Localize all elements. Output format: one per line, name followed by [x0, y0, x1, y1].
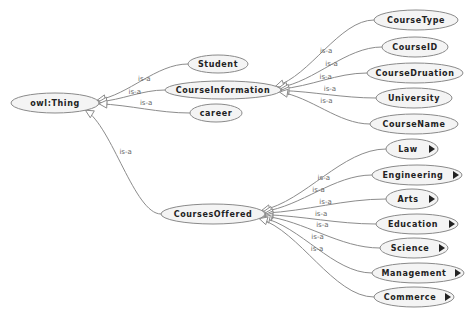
edge-label: is-a — [311, 233, 323, 241]
node-label: CourseType — [387, 16, 445, 25]
edge-label: is-a — [325, 60, 337, 68]
ontology-graph: is-ais-ais-ais-ais-ais-ais-ais-ais-ais-a… — [0, 0, 473, 323]
node-coursename[interactable]: CourseName — [370, 114, 458, 134]
node-science[interactable]: Science — [380, 238, 448, 258]
node-label: Arts — [397, 195, 418, 204]
node-law[interactable]: Law — [386, 139, 438, 159]
edge-label: is-a — [320, 47, 332, 55]
node-label: Management — [382, 269, 447, 278]
node-courseinformation[interactable]: CourseInformation — [165, 81, 281, 99]
node-label: Commerce — [384, 293, 436, 302]
edge-label: is-a — [320, 97, 332, 105]
node-owl_thing[interactable]: owl:Thing — [11, 93, 99, 113]
node-engineering[interactable]: Engineering — [372, 165, 462, 185]
edge-label: is-a — [311, 245, 323, 253]
edge-label: is-a — [324, 85, 336, 93]
edge-label: is-a — [319, 73, 331, 81]
edge-label: is-a — [316, 221, 328, 229]
nodes-layer: owl:ThingStudentCourseInformationcareerC… — [11, 10, 464, 307]
node-label: Education — [388, 220, 438, 229]
node-university[interactable]: University — [376, 88, 452, 108]
node-student[interactable]: Student — [188, 55, 248, 73]
edge-label: is-a — [138, 75, 150, 83]
node-commerce[interactable]: Commerce — [374, 287, 454, 307]
edge-label: is-a — [140, 99, 152, 107]
node-label: CourseID — [392, 43, 438, 52]
node-career[interactable]: career — [190, 104, 242, 122]
node-label: Student — [198, 60, 238, 69]
edge-label: is-a — [315, 210, 327, 218]
node-label: career — [200, 109, 232, 118]
node-coursesoffered[interactable]: CoursesOffered — [161, 204, 265, 224]
node-label: CourseDruation — [375, 69, 454, 78]
edge-career-to-owl_thing: is-a — [99, 99, 190, 113]
node-coursetype[interactable]: CourseType — [374, 10, 458, 30]
node-label: CourseName — [382, 120, 445, 129]
node-label: Law — [398, 145, 418, 154]
node-label: CoursesOffered — [174, 210, 253, 219]
node-label: University — [388, 94, 440, 103]
node-label: owl:Thing — [30, 99, 80, 108]
edge-label: is-a — [312, 186, 324, 194]
node-education[interactable]: Education — [376, 214, 458, 234]
edge-label: is-a — [129, 88, 141, 96]
node-label: Engineering — [383, 171, 444, 180]
edge-label: is-a — [318, 174, 330, 182]
node-coursedruation[interactable]: CourseDruation — [367, 63, 463, 83]
node-management[interactable]: Management — [372, 263, 464, 283]
node-arts[interactable]: Arts — [386, 189, 438, 209]
edge-label: is-a — [119, 148, 131, 156]
node-label: Science — [391, 244, 430, 253]
edge-label: is-a — [319, 198, 331, 206]
edge-courseinformation-to-owl_thing: is-a — [99, 88, 165, 106]
edge-coursesoffered-to-owl_thing: is-a — [85, 110, 161, 214]
edge-student-to-owl_thing: is-a — [97, 64, 188, 103]
node-courseid[interactable]: CourseID — [382, 37, 448, 57]
node-label: CourseInformation — [176, 86, 270, 95]
